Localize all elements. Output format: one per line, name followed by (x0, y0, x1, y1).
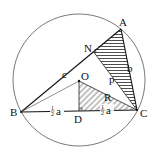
label-side-c: c (62, 68, 67, 80)
label-o: O (81, 70, 89, 82)
label-b: B (10, 106, 17, 118)
label-c: C (140, 107, 147, 119)
point-c (136, 109, 138, 111)
svg-text:a: a (56, 105, 61, 117)
label-n: N (84, 42, 92, 54)
label-side-r: R (104, 91, 112, 103)
point-b (20, 111, 22, 113)
circumcircle-diagram: A B C O D N c b p R 1 2 a 1 2 a (0, 0, 160, 157)
svg-text:2: 2 (51, 111, 54, 117)
label-a: A (119, 16, 127, 28)
label-half-a-right: 1 2 a (100, 104, 114, 116)
point-o (78, 80, 80, 82)
label-half-a-left: 1 2 a (50, 105, 64, 117)
svg-text:2: 2 (101, 110, 104, 116)
label-side-p: p (109, 73, 115, 85)
svg-text:a: a (106, 104, 111, 116)
label-d: D (74, 113, 82, 125)
label-side-b: b (127, 62, 133, 74)
